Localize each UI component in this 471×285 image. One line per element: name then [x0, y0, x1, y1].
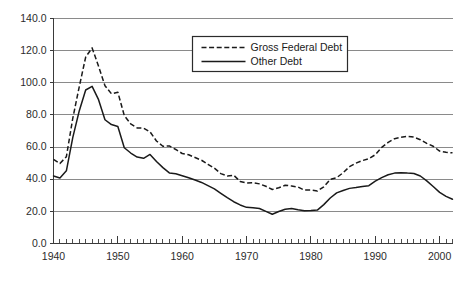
y-axis-tick-label: 40.0: [26, 172, 47, 184]
series-line-other-debt: [54, 86, 453, 214]
x-axis-tick-label: 1980: [299, 250, 323, 262]
y-axis-tick-labels: 0.020.040.060.080.0100.0120.0140.0: [20, 12, 53, 249]
x-axis-tick-label: 1940: [42, 250, 66, 262]
x-axis-minor-ticks: [54, 239, 453, 244]
chart-container: 0.020.040.060.080.0100.0120.0140.0 19401…: [0, 0, 471, 285]
x-axis-tick-label: 1970: [235, 250, 259, 262]
data-series: [54, 48, 453, 214]
y-axis-tick-label: 20.0: [26, 205, 47, 217]
chart-legend: Gross Federal DebtOther Debt: [193, 37, 348, 72]
line-chart: 0.020.040.060.080.0100.0120.0140.0 19401…: [0, 0, 471, 285]
y-axis-tick-label: 100.0: [20, 76, 46, 88]
y-axis-tick-label: 0.0: [32, 237, 47, 249]
x-axis-tick-labels: 1940195019601970198019902000: [42, 250, 452, 262]
x-axis-tick-label: 1990: [364, 250, 388, 262]
y-axis-tick-label: 120.0: [20, 44, 46, 56]
y-axis-tick-label: 140.0: [20, 12, 46, 24]
legend-label-gross-federal-debt: Gross Federal Debt: [251, 41, 343, 53]
y-axis-tick-label: 60.0: [26, 140, 47, 152]
x-axis-tick-label: 1960: [171, 250, 195, 262]
legend-label-other-debt: Other Debt: [251, 55, 302, 67]
y-axis-tick-label: 80.0: [26, 108, 47, 120]
x-axis-tick-label: 2000: [428, 250, 452, 262]
x-axis-tick-label: 1950: [106, 250, 130, 262]
